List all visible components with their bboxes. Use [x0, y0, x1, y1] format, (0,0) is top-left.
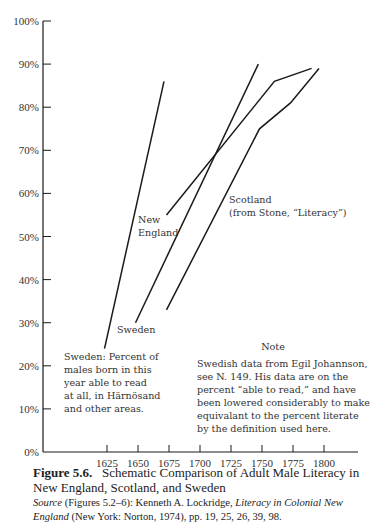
label-sweden: Sweden [117, 324, 155, 335]
sweden-note: Sweden: Percent ofmales born in thisyear… [63, 351, 160, 414]
y-tick-label: 50% [19, 231, 39, 243]
sweden-note-line: at all, in Härnösand [64, 390, 160, 401]
series-line-2 [167, 68, 312, 215]
note-title: Note [261, 341, 285, 352]
y-tick-label: 10% [19, 403, 39, 415]
annotations: New England Scotland (from Stone, “Liter… [63, 194, 370, 434]
y-tick-label: 60% [19, 187, 39, 199]
note-line: see N. 149. His data are on the [197, 371, 349, 382]
figure-caption: Figure 5.6. Schematic Comparison of Adul… [33, 465, 373, 495]
y-tick-label: 70% [19, 144, 39, 156]
figure-number: Figure 5.6. [33, 465, 92, 480]
note-line: been lowered considerably to make [197, 397, 370, 408]
note-line: by the definition used here. [197, 423, 331, 434]
y-tick-label: 0% [24, 446, 39, 458]
source-label: Source [33, 497, 62, 508]
sweden-note-line: Sweden: Percent of [64, 351, 160, 362]
sweden-note-line: males born in this [64, 364, 152, 375]
note-line: equivalant to the percent literate [197, 410, 359, 421]
y-tick-label: 100% [13, 15, 39, 27]
y-tick-label: 40% [19, 274, 39, 286]
label-scotland-2: (from Stone, “Literacy”) [229, 207, 347, 218]
y-tick-label: 80% [19, 101, 39, 113]
y-tick-label: 20% [19, 360, 39, 372]
note-line: Swedish data from Egil Johannson, [197, 358, 368, 369]
note-line: percent “able to read,” and have [197, 384, 356, 395]
label-new-england-1: New [138, 214, 161, 225]
source-pre: (Figures 5.2–6): Kenneth A. Lockridge, [62, 497, 235, 508]
source-post: (New York: Norton, 1974), pp. 19, 25, 26… [69, 511, 282, 522]
figure-source: Source (Figures 5.2–6): Kenneth A. Lockr… [33, 496, 376, 524]
note-body: Swedish data from Egil Johannson,see N. … [197, 358, 370, 434]
label-scotland-1: Scotland [229, 194, 272, 205]
label-new-england-2: England [138, 227, 178, 238]
sweden-note-line: and other areas. [64, 403, 144, 414]
sweden-note-line: year able to read [63, 377, 147, 388]
y-tick-label: 90% [19, 58, 39, 70]
series-line-3 [167, 68, 320, 309]
y-tick-label: 30% [19, 317, 39, 329]
